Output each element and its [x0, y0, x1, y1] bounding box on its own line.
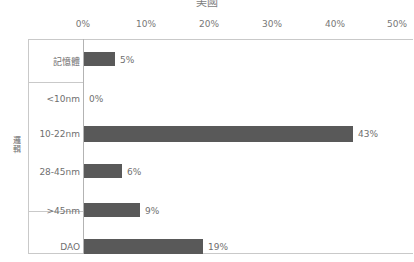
x-tick-0: 0% — [76, 19, 90, 29]
bar-value-dao: 19% — [208, 242, 228, 252]
bar-value-memory: 5% — [120, 55, 134, 65]
chart-title: 美國 — [0, 0, 414, 9]
bar-row-28to45nm[interactable]: 28-45nm 6% — [0, 155, 414, 193]
bar-memory[interactable] — [84, 52, 115, 66]
bar-28to45nm[interactable] — [84, 164, 122, 178]
x-tick-20: 20% — [199, 19, 219, 29]
chart-plot-area: 記憶體 5% <10nm 0% 10-22nm 43% 28-45nm 6% >… — [0, 39, 414, 254]
bar-over45nm[interactable] — [84, 203, 140, 217]
bar-value-10to22nm: 43% — [358, 129, 378, 139]
bar-row-memory[interactable]: 記憶體 5% — [0, 39, 414, 82]
bar-10to22nm[interactable] — [84, 126, 353, 142]
x-tick-50: 50% — [387, 19, 407, 29]
category-label-memory: 記憶體 — [30, 55, 80, 68]
bar-row-sub10nm[interactable]: <10nm 0% — [0, 82, 414, 116]
category-label-10to22nm: 10-22nm — [30, 129, 80, 139]
x-tick-30: 30% — [262, 19, 282, 29]
category-label-sub10nm: <10nm — [30, 94, 80, 104]
x-tick-10: 10% — [136, 19, 156, 29]
bar-value-over45nm: 9% — [145, 206, 159, 216]
category-label-dao: DAO — [30, 242, 80, 252]
bar-row-dao[interactable]: DAO 19% — [0, 231, 414, 254]
x-tick-40: 40% — [325, 19, 345, 29]
bar-value-28to45nm: 6% — [127, 167, 141, 177]
bar-row-10to22nm[interactable]: 10-22nm 43% — [0, 116, 414, 155]
category-label-over45nm: >45nm — [30, 206, 80, 216]
bar-row-over45nm[interactable]: >45nm 9% — [0, 193, 414, 231]
bar-value-sub10nm: 0% — [89, 94, 103, 104]
category-label-28to45nm: 28-45nm — [30, 167, 80, 177]
bar-dao[interactable] — [84, 239, 203, 254]
x-axis-tick-labels: 0% 10% 20% 30% 40% 50% — [0, 19, 414, 33]
